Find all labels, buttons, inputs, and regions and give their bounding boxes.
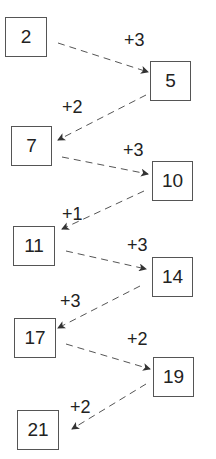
number-box-5: 5 [150,61,191,101]
number-box-10: 10 [152,161,193,201]
number-box-2: 2 [5,17,47,57]
step-label: +2 [70,398,91,416]
number-box-19: 19 [153,357,194,397]
step-label: +3 [127,236,148,254]
step-label: +3 [124,31,145,49]
step-label: +2 [127,330,148,348]
step-label: +2 [62,98,83,116]
number-pattern-diagram: 2 5 7 10 11 14 17 19 21 +3 +2 +3 +1 +3 +… [0,0,216,459]
step-label: +3 [123,141,144,159]
step-label: +1 [62,205,83,223]
step-label: +3 [60,292,81,310]
number-box-11: 11 [13,226,55,266]
number-box-17: 17 [14,318,56,358]
number-box-14: 14 [152,257,193,297]
number-box-21: 21 [17,410,59,450]
number-box-7: 7 [11,126,52,166]
